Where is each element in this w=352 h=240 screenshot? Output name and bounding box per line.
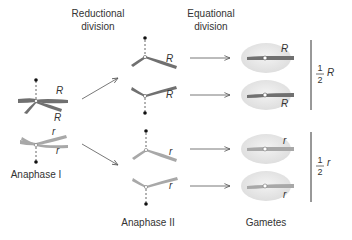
meiosis-diagram: Reductional division Equational division…: [0, 0, 352, 240]
svg-text:2: 2: [317, 75, 322, 85]
arrow-reductional-upper: [82, 78, 118, 99]
anaphase2-allele-r-top: r: [169, 146, 173, 157]
heading-reductional-line1: Reductional: [72, 8, 125, 19]
anaphase1-chromosome-R: [18, 78, 68, 114]
anaphase1-chromosome-r: [20, 135, 68, 164]
fraction-r-allele: r: [327, 157, 331, 168]
fraction-half-R: 1 2 R: [316, 63, 334, 85]
anaphase1-allele-R-bottom: R: [54, 112, 61, 123]
heading-equational-line1: Equational: [187, 8, 234, 19]
fraction-half-r: 1 2 r: [316, 155, 331, 177]
gamete-R-2-allele: R: [281, 98, 288, 109]
label-anaphase-1: Anaphase I: [11, 169, 62, 180]
heading-equational-line2: division: [194, 21, 227, 32]
label-gametes: Gametes: [246, 217, 287, 228]
svg-text:1: 1: [317, 155, 322, 165]
arrow-reductional-lower: [82, 144, 118, 165]
anaphase2-allele-R-top: R: [166, 53, 173, 64]
gamete-R-1-allele: R: [281, 43, 288, 54]
label-anaphase-2: Anaphase II: [121, 217, 174, 228]
anaphase1-allele-r-top: r: [52, 126, 56, 137]
fraction-R-allele: R: [327, 67, 334, 78]
anaphase2-allele-r-bottom: r: [169, 180, 173, 191]
anaphase2-allele-R-bottom: R: [166, 89, 173, 100]
heading-reductional-line2: division: [81, 21, 114, 32]
svg-text:2: 2: [317, 167, 322, 177]
anaphase1-allele-R-top: R: [56, 85, 63, 96]
svg-text:1: 1: [317, 63, 322, 73]
